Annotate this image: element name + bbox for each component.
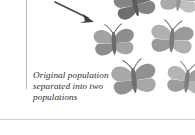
butterfly-icon [162,58,195,103]
bottom-divider-rule [0,119,195,120]
speciation-diagram-panel: Original population separated into two p… [0,0,195,135]
caption-line-2: separated into two [33,81,117,92]
figure-caption: Original population separated into two p… [33,70,117,104]
vertical-divider-rule [26,0,27,89]
caption-line-1: Original population [33,70,117,81]
caption-line-3: populations [33,92,117,103]
